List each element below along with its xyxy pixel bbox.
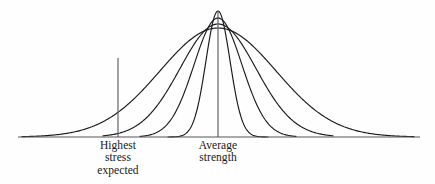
label-highest-stress-line-3: expected [68, 164, 168, 176]
label-average-strength: Average strength [168, 139, 268, 164]
label-highest-stress-expected: Highest stress expected [68, 139, 168, 176]
label-average-strength-line-1: Average [168, 139, 268, 151]
label-highest-stress-line-1: Highest [68, 139, 168, 151]
label-highest-stress-line-2: stress [68, 151, 168, 163]
label-average-strength-line-2: strength [168, 151, 268, 163]
distribution-figure: Highest stress expected Average strength [0, 0, 435, 184]
reference-lines-group [118, 11, 218, 137]
